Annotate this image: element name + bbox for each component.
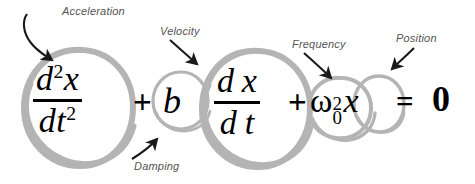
- plus-operator-1: +: [133, 84, 152, 121]
- equals-operator: =: [396, 84, 414, 120]
- fraction-d2x-dt2: d2x dt2: [33, 62, 82, 138]
- term-velocity: d x d t: [214, 64, 260, 142]
- term-frequency: ω20x: [310, 82, 358, 120]
- term-acceleration: d2x dt2: [33, 62, 82, 140]
- omega-symbol: ω: [310, 82, 332, 119]
- plus-operator-2: +: [288, 84, 307, 121]
- fraction-denominator: d t: [214, 106, 260, 140]
- fraction-denominator: dt2: [33, 104, 82, 138]
- position-variable: x: [343, 82, 358, 119]
- right-hand-side-zero: 0: [432, 78, 450, 120]
- fraction-dx-dt: d x d t: [214, 64, 260, 140]
- term-damping-coefficient: b: [163, 80, 181, 122]
- fraction-numerator: d x: [214, 64, 260, 98]
- fraction-numerator: d2x: [33, 62, 82, 96]
- equation-layer: d2x dt2 + b d x d t + ω20x = 0: [0, 0, 475, 184]
- equation-figure: d2x dt2 + b d x d t + ω20x = 0: [0, 0, 475, 184]
